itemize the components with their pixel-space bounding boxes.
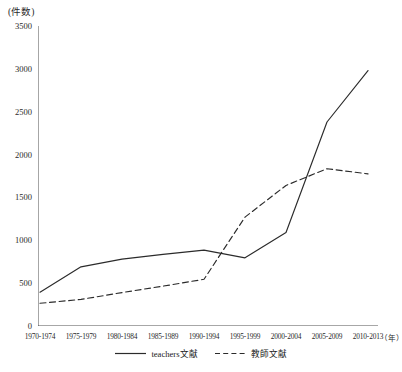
y-tick-label: 1000 — [15, 235, 32, 245]
dashed-line-icon — [215, 350, 246, 357]
y-tick-label: 2500 — [15, 107, 32, 117]
x-tick-label: 2005-2009 — [312, 332, 343, 341]
legend-item: teachers文献 — [115, 347, 197, 359]
y-tick-label: 3000 — [15, 64, 32, 74]
x-tick-label: 1985-1989 — [148, 332, 179, 341]
legend-item: 教師文献 — [215, 347, 287, 359]
y-tick-label: 1500 — [15, 192, 32, 202]
y-axis-unit-label: (件数) — [8, 4, 34, 18]
y-tick-label: 500 — [19, 278, 32, 288]
series-line-2 — [40, 169, 368, 304]
x-tick-label: 1990-1994 — [189, 332, 220, 341]
legend-label: teachers文献 — [151, 347, 197, 359]
y-tick-label: 3500 — [15, 21, 32, 31]
solid-line-icon — [115, 350, 146, 357]
x-tick-label: 1980-1984 — [107, 332, 138, 341]
x-tick-label: 1995-1999 — [230, 332, 261, 341]
x-axis-unit-label: （年） — [380, 332, 402, 343]
x-tick-label: 1970-1974 — [25, 332, 56, 341]
chart-legend: teachers文献教師文献 — [0, 347, 402, 359]
x-tick-label: 2010-2013 — [353, 332, 384, 341]
series-line-1 — [40, 71, 368, 293]
chart-svg — [38, 26, 378, 326]
plot-area — [38, 26, 378, 326]
y-tick-label: 0 — [28, 321, 32, 331]
legend-label: 教師文献 — [251, 347, 287, 359]
y-tick-label: 2000 — [15, 150, 32, 160]
axis-lines — [38, 26, 378, 326]
x-tick-label: 2000-2004 — [271, 332, 302, 341]
x-tick-label: 1975-1979 — [66, 332, 97, 341]
line-chart: (件数) 0500100015002000250030003500 1970-1… — [0, 0, 402, 372]
